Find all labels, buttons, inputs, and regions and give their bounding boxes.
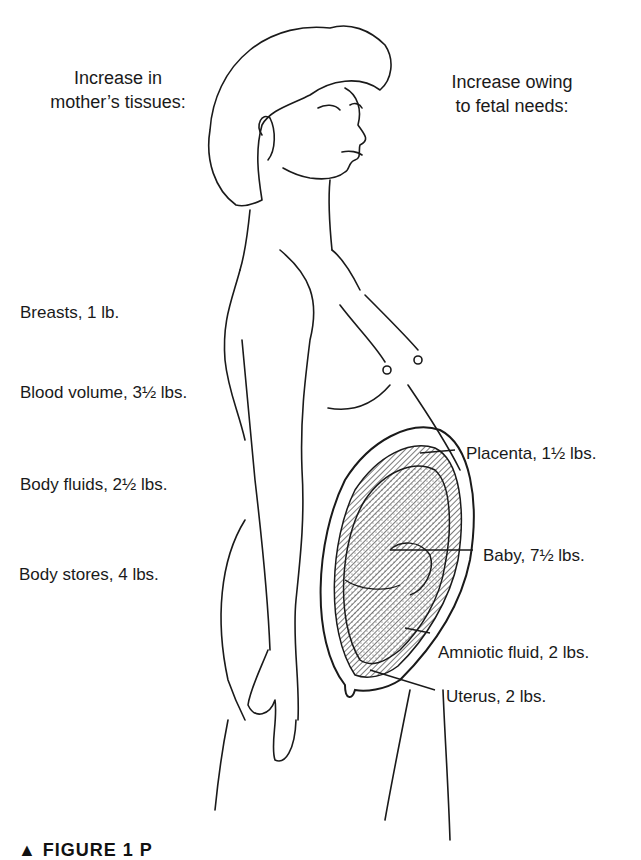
mother-tissues-header: Increase in mother’s tissues:	[18, 66, 218, 114]
breast-under	[328, 385, 390, 409]
eye	[318, 105, 340, 110]
nipple-2	[414, 356, 422, 364]
eye-2	[350, 104, 362, 108]
arm-back	[242, 340, 270, 650]
hand	[248, 650, 296, 761]
label-baby: Baby, 7½ lbs.	[483, 545, 585, 566]
leg-front-2	[443, 690, 450, 840]
mother-tissues-header-line1: Increase in	[18, 66, 218, 90]
fetal-needs-header-line2: to fetal needs:	[432, 94, 592, 118]
fetal-needs-header-line1: Increase owing	[432, 70, 592, 94]
label-body-fluids: Body fluids, 2½ lbs.	[20, 474, 167, 495]
fetal-needs-header: Increase owing to fetal needs:	[432, 70, 592, 118]
label-blood-volume: Blood volume, 3½ lbs.	[20, 382, 187, 403]
label-placenta: Placenta, 1½ lbs.	[466, 443, 596, 464]
buttock	[221, 520, 245, 720]
label-amniotic-fluid: Amniotic fluid, 2 lbs.	[438, 642, 589, 663]
back	[224, 270, 245, 440]
ear	[259, 116, 274, 160]
uterus-leader	[370, 670, 435, 690]
nipple	[383, 366, 391, 374]
leg-front	[385, 690, 410, 820]
mother-tissues-header-line2: mother’s tissues:	[18, 90, 218, 114]
label-body-stores: Body stores, 4 lbs.	[19, 564, 159, 585]
breast-upper	[340, 305, 385, 362]
arm-front	[280, 250, 314, 720]
hair	[209, 26, 391, 206]
label-breasts: Breasts, 1 lb.	[20, 302, 119, 323]
chest-line	[332, 250, 360, 290]
label-uterus: Uterus, 2 lbs.	[446, 686, 546, 707]
leg-back	[215, 720, 228, 810]
breast-upper-2	[365, 295, 418, 350]
neck-front	[329, 180, 332, 250]
neck-back	[240, 210, 250, 270]
figure-caption: ▲ FIGURE 1 P	[18, 840, 153, 860]
